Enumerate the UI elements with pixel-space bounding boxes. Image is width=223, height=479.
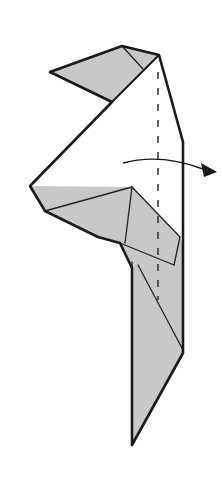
origami-diagram — [0, 0, 223, 479]
lower-strip — [132, 265, 183, 445]
arrowhead-icon — [201, 163, 217, 177]
